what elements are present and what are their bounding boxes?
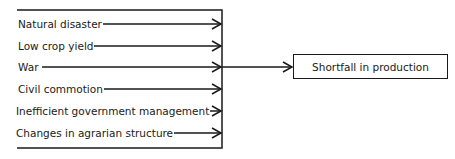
cause-war: War <box>18 61 39 73</box>
cause-low-crop-yield: Low crop yield <box>18 40 94 52</box>
cause-changes-in-agrarian-structure: Changes in agrarian structure <box>16 127 174 139</box>
effect-box: Shortfall in production <box>293 54 448 79</box>
effect-label: Shortfall in production <box>294 61 447 73</box>
cause-natural-disaster: Natural disaster <box>18 18 103 30</box>
cause-civil-commotion: Civil commotion <box>18 83 104 95</box>
cause-inefficient-government-management: Inefficient government management <box>16 105 210 117</box>
